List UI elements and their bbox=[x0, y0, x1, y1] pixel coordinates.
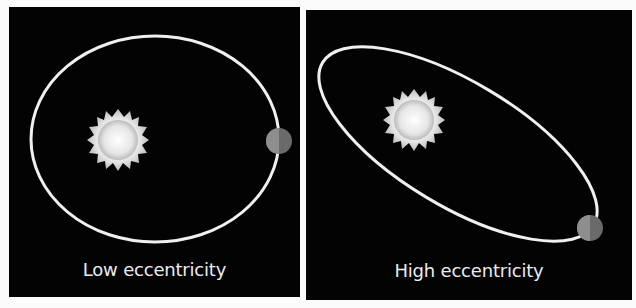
sun-icon bbox=[87, 109, 149, 171]
sun-icon bbox=[383, 89, 445, 151]
panel-caption: Low eccentricity bbox=[9, 259, 300, 280]
planet-icon bbox=[266, 128, 292, 154]
panel-caption: High eccentricity bbox=[306, 260, 632, 281]
orbit-path bbox=[31, 36, 279, 242]
orbit-diagram-high bbox=[306, 10, 632, 300]
orbit-diagram-low bbox=[9, 7, 300, 297]
orbit-path bbox=[306, 10, 625, 279]
low-eccentricity-panel: Low eccentricity bbox=[9, 7, 300, 297]
high-eccentricity-panel: High eccentricity bbox=[306, 10, 632, 300]
planet-icon bbox=[577, 215, 603, 241]
